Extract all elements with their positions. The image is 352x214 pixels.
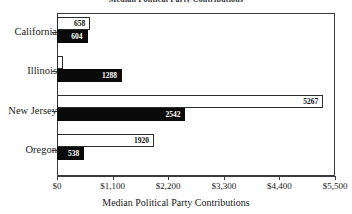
bar-value-label: 604 (71, 33, 86, 41)
category-axis-new-jersey: New Jersey (0, 105, 57, 117)
bar-value-label: 1920 (134, 137, 153, 145)
bar-series2-california: 604 (57, 30, 88, 43)
x-tick-mark (113, 176, 114, 180)
x-tick-label: $4,400 (256, 181, 302, 191)
x-tick-mark (224, 176, 225, 180)
x-tick-label: $2,200 (145, 181, 191, 191)
bar-series1-new-jersey: 5267 (57, 95, 323, 108)
category-axis-california: California (0, 26, 57, 38)
x-tick-mark (335, 176, 336, 180)
bar-series2-new-jersey: 2542 (57, 108, 185, 121)
category-label: New Jersey (5, 105, 57, 116)
category-label: Illinois (5, 65, 57, 76)
bar-value-label: 658 (74, 20, 89, 28)
bar-series1-california: 658 (57, 17, 90, 30)
bar-value-label: 1288 (102, 72, 121, 80)
category-label: Oregon (5, 144, 57, 155)
bar-series1-illinois (57, 56, 63, 69)
x-tick-mark (168, 176, 169, 180)
bar-value-label: 2542 (165, 111, 184, 119)
x-tick-mark (57, 176, 58, 180)
bar-series1-oregon: 1920 (57, 134, 154, 147)
bar-series2-oregon: 538 (57, 147, 84, 160)
x-axis-title: Median Political Party Contributions (0, 197, 352, 208)
bar-series2-illinois: 1288 (57, 69, 122, 82)
x-tick-mark (279, 176, 280, 180)
category-axis-illinois: Illinois (0, 65, 57, 77)
x-axis-line (57, 176, 335, 177)
chart-container: Median Political Party Contributions Cal… (0, 0, 352, 214)
bar-value-label: 5267 (303, 98, 322, 106)
category-label: California (5, 26, 57, 37)
chart-title: Median Political Party Contributions (0, 0, 352, 3)
x-tick-label: $0 (34, 181, 80, 191)
x-tick-label: $3,300 (201, 181, 247, 191)
bar-value-label: 538 (68, 150, 83, 158)
category-axis-oregon: Oregon (0, 144, 57, 156)
x-tick-label: $1,100 (90, 181, 136, 191)
x-tick-label: $5,500 (312, 181, 352, 191)
